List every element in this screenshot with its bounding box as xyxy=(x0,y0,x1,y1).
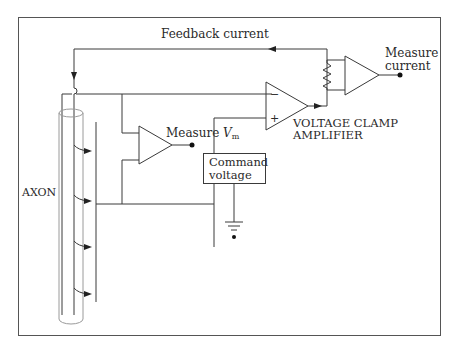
arrow-icon xyxy=(84,198,92,204)
voltage-clamp-diagram: Feedback current xyxy=(0,0,456,350)
arrow-icon xyxy=(84,148,92,154)
axon-label: AXON xyxy=(21,186,57,199)
measure-current-label-line2: current xyxy=(385,59,431,73)
arrow-icon xyxy=(84,244,92,250)
current-amplifier-icon xyxy=(345,56,379,95)
current-output-terminal xyxy=(398,73,403,78)
minus-input-label: − xyxy=(270,88,279,101)
wire-crossover xyxy=(74,88,77,94)
membrane-current-arrows xyxy=(74,145,88,294)
feedback-arrow-icon xyxy=(268,46,276,52)
ground-terminal xyxy=(232,235,236,239)
feedback-current-label: Feedback current xyxy=(161,27,269,41)
plus-input-label: + xyxy=(270,112,279,125)
command-voltage-label-line1: Command xyxy=(209,155,269,169)
measure-current-label-line1: Measure xyxy=(385,46,438,60)
arrow-icon xyxy=(84,291,92,297)
clamp-amplifier-label-line2: AMPLIFIER xyxy=(292,128,363,142)
ground-icon xyxy=(225,222,243,230)
output-arrow-icon xyxy=(314,103,322,109)
measure-vm-label: Measure Vm xyxy=(166,126,240,141)
current-injection-arrow-icon xyxy=(71,72,77,80)
vm-output-terminal xyxy=(190,143,195,148)
command-voltage-label-line2: voltage xyxy=(208,168,252,182)
